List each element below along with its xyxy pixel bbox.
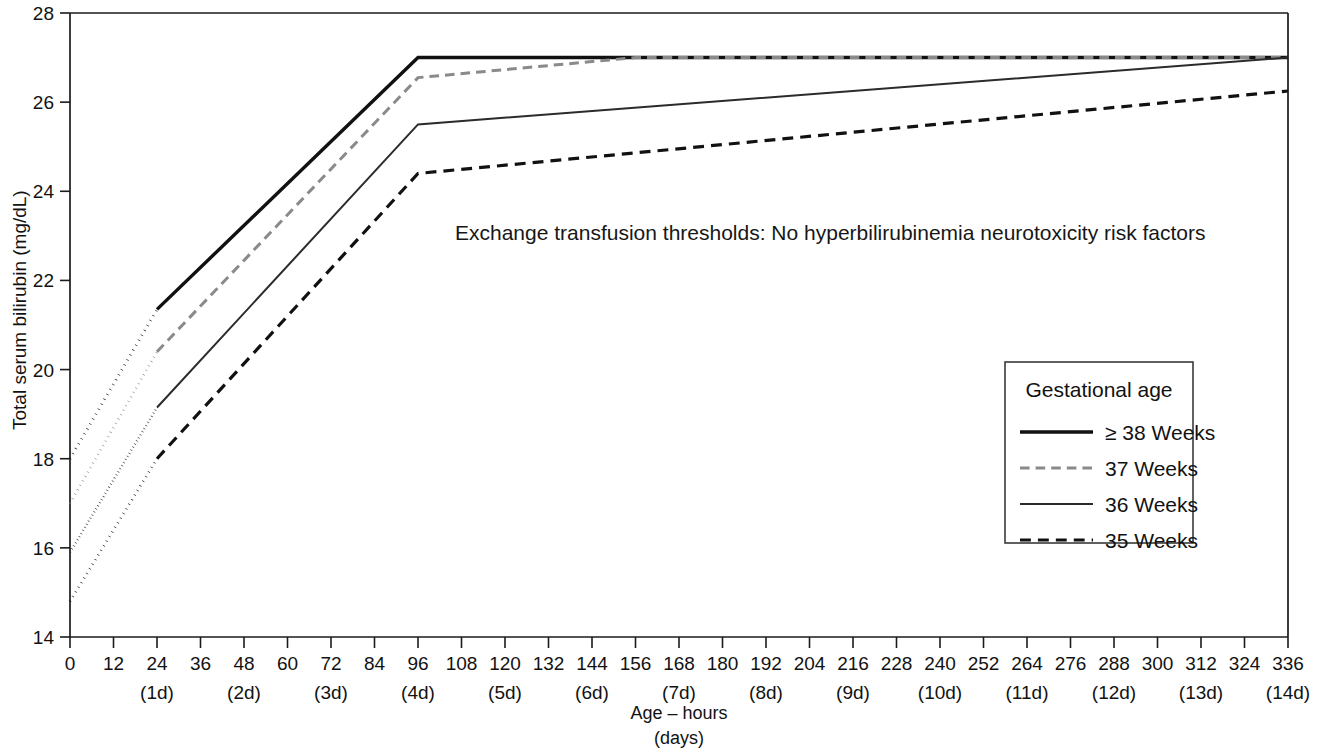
- y-tick-label: 20: [33, 360, 54, 381]
- legend-label-0: ≥ 38 Weeks: [1105, 421, 1215, 444]
- y-tick-label: 16: [33, 538, 54, 559]
- x-tick-day-label: (3d): [314, 682, 348, 703]
- x-tick-label: 96: [407, 653, 428, 674]
- x-tick-label: 144: [576, 653, 608, 674]
- x-tick-label: 156: [620, 653, 652, 674]
- x-tick-label: 192: [750, 653, 782, 674]
- series-line-dotted-0: [70, 309, 157, 458]
- y-tick-label: 22: [33, 270, 54, 291]
- x-tick-label: 108: [446, 653, 478, 674]
- x-tick-label: 0: [65, 653, 76, 674]
- chart-annotation: Exchange transfusion thresholds: No hype…: [455, 221, 1206, 244]
- x-tick-day-label: (8d): [749, 682, 783, 703]
- legend: Gestational age ≥ 38 Weeks37 Weeks36 Wee…: [1005, 362, 1215, 552]
- x-tick-label: 84: [364, 653, 386, 674]
- x-tick-day-label: (11d): [1006, 682, 1049, 703]
- x-tick-label: 264: [1011, 653, 1043, 674]
- series-line-dotted-1: [70, 352, 157, 504]
- y-axis-title: Total serum bilirubin (mg/dL): [9, 190, 30, 430]
- chart-page: 1416182022242628 01224364860728496108120…: [0, 0, 1317, 754]
- legend-label-2: 36 Weeks: [1105, 493, 1198, 516]
- x-tick-label: 132: [533, 653, 565, 674]
- x-tick-day-label: (14d): [1266, 682, 1310, 703]
- x-tick-day-label: (13d): [1179, 682, 1223, 703]
- y-axis-ticks: 1416182022242628: [33, 3, 70, 648]
- x-tick-day-label: (5d): [488, 682, 522, 703]
- x-axis-title-hours: Age – hours: [630, 703, 727, 723]
- x-tick-label: 216: [837, 653, 869, 674]
- x-axis-ticks: 0122436486072849610812013214415616818019…: [65, 637, 1310, 703]
- plot-area: 1416182022242628 01224364860728496108120…: [33, 3, 1310, 703]
- bilirubin-exchange-transfusion-chart: 1416182022242628 01224364860728496108120…: [0, 0, 1317, 754]
- legend-label-3: 35 Weeks: [1105, 529, 1198, 552]
- x-tick-day-label: (2d): [227, 682, 261, 703]
- x-tick-label: 72: [320, 653, 341, 674]
- x-tick-label: 60: [277, 653, 298, 674]
- x-tick-label: 24: [146, 653, 168, 674]
- x-tick-label: 180: [707, 653, 739, 674]
- series-line-dotted-2: [70, 407, 157, 552]
- x-tick-label: 120: [489, 653, 521, 674]
- series-line-dotted-3: [70, 459, 157, 602]
- x-tick-day-label: (9d): [836, 682, 870, 703]
- x-tick-day-label: (10d): [918, 682, 962, 703]
- x-tick-label: 228: [881, 653, 913, 674]
- x-tick-label: 312: [1185, 653, 1217, 674]
- y-tick-label: 18: [33, 449, 54, 470]
- x-tick-label: 204: [794, 653, 826, 674]
- y-tick-label: 28: [33, 3, 54, 24]
- legend-title: Gestational age: [1025, 378, 1172, 401]
- x-tick-day-label: (7d): [662, 682, 696, 703]
- x-tick-day-label: (6d): [575, 682, 609, 703]
- x-tick-label: 336: [1272, 653, 1304, 674]
- x-tick-label: 276: [1055, 653, 1087, 674]
- x-tick-label: 48: [233, 653, 254, 674]
- y-tick-label: 24: [33, 181, 55, 202]
- x-tick-day-label: (12d): [1092, 682, 1136, 703]
- x-axis-title-days: (days): [654, 728, 704, 748]
- x-tick-label: 168: [663, 653, 695, 674]
- x-tick-day-label: (4d): [401, 682, 435, 703]
- x-tick-label: 240: [924, 653, 956, 674]
- x-tick-label: 36: [190, 653, 211, 674]
- x-tick-label: 252: [968, 653, 1000, 674]
- x-tick-label: 324: [1229, 653, 1261, 674]
- x-tick-label: 300: [1142, 653, 1174, 674]
- y-tick-label: 14: [33, 627, 55, 648]
- y-tick-label: 26: [33, 92, 54, 113]
- legend-label-1: 37 Weeks: [1105, 457, 1198, 480]
- x-tick-label: 12: [103, 653, 124, 674]
- x-tick-day-label: (1d): [140, 682, 174, 703]
- x-tick-label: 288: [1098, 653, 1130, 674]
